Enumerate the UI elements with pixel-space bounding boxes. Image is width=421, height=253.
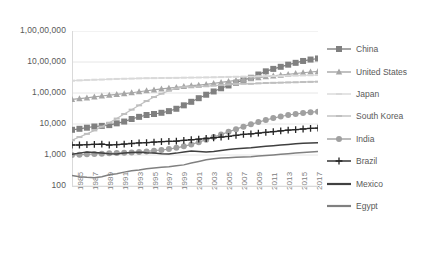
- data-point-marker: [84, 79, 90, 81]
- data-point-marker: [180, 137, 187, 144]
- data-point-marker: [166, 90, 172, 92]
- data-point-marker: [292, 126, 299, 133]
- data-point-marker: [336, 46, 342, 52]
- data-point-marker: [248, 76, 254, 78]
- data-point-marker: [173, 138, 180, 145]
- data-point-marker: [285, 62, 291, 68]
- data-point-marker: [336, 115, 342, 117]
- legend-label: India: [356, 134, 374, 144]
- legend-item-china[interactable]: China: [327, 38, 421, 60]
- data-point-marker: [151, 96, 157, 98]
- series-united-states: [72, 68, 318, 102]
- y-axis-tick-label: 1,000: [2, 149, 66, 159]
- data-point-marker: [240, 83, 246, 85]
- legend-item-united-states[interactable]: United States: [327, 60, 421, 82]
- data-point-marker: [158, 93, 164, 95]
- data-point-marker: [188, 77, 194, 79]
- legend-item-south-korea[interactable]: South Korea: [327, 105, 421, 127]
- data-point-marker: [158, 138, 165, 145]
- data-point-marker: [225, 133, 232, 140]
- plot-area: [72, 31, 318, 186]
- data-point-marker: [277, 127, 284, 134]
- data-point-marker: [166, 138, 173, 145]
- data-point-marker: [72, 142, 75, 149]
- data-point-marker: [218, 85, 224, 91]
- data-point-marker: [181, 143, 187, 149]
- data-point-marker: [173, 77, 179, 79]
- data-point-marker: [76, 126, 82, 132]
- data-point-marker: [285, 75, 291, 77]
- legend-item-brazil[interactable]: Brazil: [327, 150, 421, 172]
- data-point-marker: [278, 75, 284, 77]
- data-point-marker: [121, 119, 127, 125]
- data-point-marker: [248, 83, 254, 85]
- data-point-marker: [151, 77, 157, 79]
- data-point-marker: [106, 142, 113, 149]
- data-point-marker: [233, 126, 239, 132]
- data-point-marker: [129, 78, 135, 80]
- y-axis-tick-label: 1,00,000: [2, 87, 66, 97]
- data-point-marker: [76, 136, 82, 138]
- data-point-marker: [203, 76, 209, 78]
- data-point-marker: [263, 82, 269, 84]
- data-point-marker: [263, 117, 269, 123]
- data-point-marker: [308, 109, 314, 115]
- data-point-marker: [98, 141, 105, 148]
- data-point-marker: [144, 100, 150, 102]
- data-point-marker: [188, 99, 194, 105]
- data-point-marker: [315, 109, 318, 115]
- data-point-marker: [218, 76, 224, 78]
- legend-marker-icon: [327, 155, 351, 167]
- data-point-marker: [166, 77, 172, 79]
- data-point-marker: [315, 81, 318, 83]
- data-point-marker: [300, 74, 306, 76]
- data-point-marker: [106, 78, 112, 80]
- data-point-marker: [84, 141, 91, 148]
- legend-label: South Korea: [356, 111, 403, 121]
- data-point-marker: [211, 88, 217, 94]
- data-point-marker: [293, 60, 299, 66]
- data-point-marker: [188, 86, 194, 88]
- data-point-marker: [255, 130, 262, 137]
- data-point-marker: [76, 142, 83, 149]
- data-point-marker: [144, 112, 150, 118]
- legend-label: Egypt: [356, 201, 378, 211]
- chart-legend: ChinaUnited StatesJapanSouth KoreaIndiaB…: [327, 38, 421, 217]
- data-point-marker: [270, 82, 276, 84]
- legend-item-mexico[interactable]: Mexico: [327, 172, 421, 194]
- legend-marker-icon: [327, 66, 351, 78]
- data-point-marker: [336, 136, 342, 142]
- data-point-marker: [136, 114, 142, 120]
- data-point-marker: [151, 139, 158, 146]
- data-point-marker: [248, 130, 255, 137]
- data-point-marker: [121, 141, 128, 148]
- data-point-marker: [121, 113, 127, 115]
- data-point-marker: [173, 87, 179, 89]
- data-point-marker: [129, 116, 135, 122]
- data-point-marker: [233, 132, 240, 139]
- legend-item-egypt[interactable]: Egypt: [327, 195, 421, 217]
- data-point-marker: [158, 77, 164, 79]
- legend-item-japan[interactable]: Japan: [327, 83, 421, 105]
- legend-item-india[interactable]: India: [327, 128, 421, 150]
- data-point-marker: [233, 76, 239, 78]
- legend-marker-icon: [327, 110, 351, 122]
- data-point-marker: [270, 128, 277, 135]
- data-point-marker: [136, 77, 142, 79]
- data-point-marker: [181, 77, 187, 79]
- data-point-marker: [84, 125, 90, 131]
- data-point-marker: [151, 111, 157, 117]
- data-point-marker: [278, 113, 284, 119]
- data-point-marker: [226, 84, 232, 86]
- data-point-marker: [121, 78, 127, 80]
- legend-marker-icon: [327, 178, 351, 190]
- series-japan: [72, 74, 318, 82]
- data-point-marker: [106, 122, 112, 124]
- data-point-marker: [255, 119, 261, 125]
- y-axis-tick-label: 10,00,000: [2, 56, 66, 66]
- data-point-marker: [128, 140, 135, 147]
- data-point-marker: [278, 64, 284, 70]
- legend-marker-icon: [327, 200, 351, 212]
- data-point-marker: [211, 85, 217, 87]
- data-point-marker: [336, 158, 343, 165]
